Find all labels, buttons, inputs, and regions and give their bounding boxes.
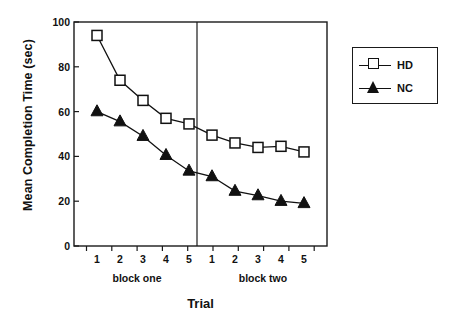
x-tick-label: 3 <box>248 253 268 265</box>
x-tick-label: 5 <box>294 253 314 265</box>
data-point-open-square <box>276 141 286 151</box>
data-point-open-square <box>253 142 263 152</box>
data-point-open-square <box>299 147 309 157</box>
plot-frame <box>74 22 327 246</box>
x-tick-label: 4 <box>156 253 176 265</box>
data-point-open-square <box>138 95 148 105</box>
block-one-label: block one <box>86 272 188 284</box>
chart-figure: Mean Completion Time (sec) 100 80 60 40 … <box>0 0 453 326</box>
x-tick-label: 4 <box>271 253 291 265</box>
x-axis-title: Trial <box>74 296 327 311</box>
legend-label-hd: HD <box>397 59 413 71</box>
x-tick-label: 5 <box>179 253 199 265</box>
data-point-open-square <box>92 30 102 40</box>
x-tick-label: 2 <box>110 253 130 265</box>
x-tick-label: 3 <box>133 253 153 265</box>
data-point-open-square <box>184 119 194 129</box>
data-point-open-square <box>207 130 217 140</box>
x-tick-marks <box>87 246 315 251</box>
data-point-open-square <box>161 113 171 123</box>
x-tick-label: 1 <box>202 253 222 265</box>
data-point-open-square <box>115 75 125 85</box>
block-two-label: block two <box>212 272 314 284</box>
x-tick-label: 1 <box>87 253 107 265</box>
x-tick-label: 2 <box>225 253 245 265</box>
chart-legend: HD NC <box>352 47 438 104</box>
legend-marker-open-square <box>353 54 397 76</box>
data-point-open-square <box>230 138 240 148</box>
legend-marker-filled-triangle <box>353 77 397 99</box>
legend-label-nc: NC <box>397 82 413 94</box>
